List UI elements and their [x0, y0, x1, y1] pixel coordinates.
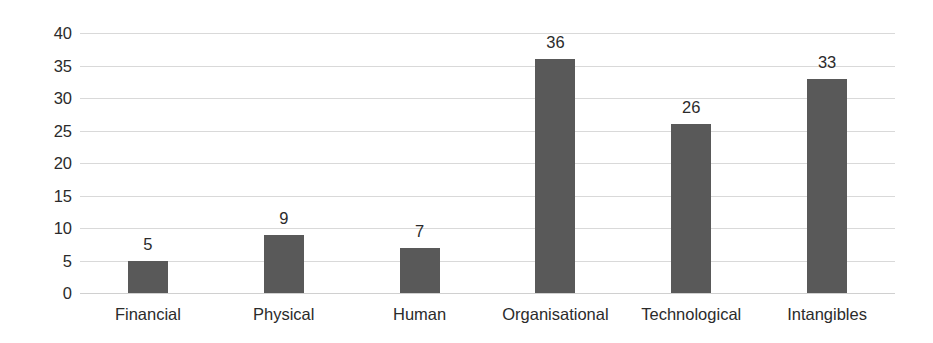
gridline	[80, 261, 895, 262]
plot-area: 597362633	[80, 33, 895, 293]
y-tick-label: 5	[0, 252, 72, 269]
bar[interactable]	[400, 248, 440, 294]
x-tick-label: Intangibles	[759, 306, 895, 323]
y-tick-label: 40	[0, 25, 72, 42]
bar-value-label: 5	[108, 236, 188, 253]
x-axis: FinancialPhysicalHumanOrganisationalTech…	[80, 300, 895, 340]
x-tick-label: Physical	[216, 306, 352, 323]
y-tick-label: 25	[0, 122, 72, 139]
gridline	[80, 228, 895, 229]
x-tick-label: Technological	[623, 306, 759, 323]
x-tick-label: Human	[352, 306, 488, 323]
gridline	[80, 131, 895, 132]
y-tick-label: 10	[0, 220, 72, 237]
y-tick-label: 15	[0, 187, 72, 204]
bar-value-label: 26	[651, 99, 731, 116]
y-tick-label: 30	[0, 90, 72, 107]
bar[interactable]	[128, 261, 168, 294]
y-tick-label: 20	[0, 155, 72, 172]
bar-value-label: 7	[380, 223, 460, 240]
gridline	[80, 33, 895, 34]
bar-value-label: 33	[787, 54, 867, 71]
bar-value-label: 36	[515, 34, 595, 51]
bar-value-label: 9	[244, 210, 324, 227]
y-tick-label: 0	[0, 285, 72, 302]
x-tick-label: Financial	[80, 306, 216, 323]
bar[interactable]	[671, 124, 711, 293]
gridline	[80, 293, 895, 294]
bar[interactable]	[264, 235, 304, 294]
gridline	[80, 196, 895, 197]
gridline	[80, 66, 895, 67]
gridline	[80, 98, 895, 99]
bar[interactable]	[535, 59, 575, 293]
x-tick-label: Organisational	[488, 306, 624, 323]
bar[interactable]	[807, 79, 847, 294]
y-tick-label: 35	[0, 57, 72, 74]
gridline	[80, 163, 895, 164]
bar-chart: 4035302520151050 597362633 FinancialPhys…	[0, 0, 933, 343]
y-axis: 4035302520151050	[0, 33, 72, 293]
